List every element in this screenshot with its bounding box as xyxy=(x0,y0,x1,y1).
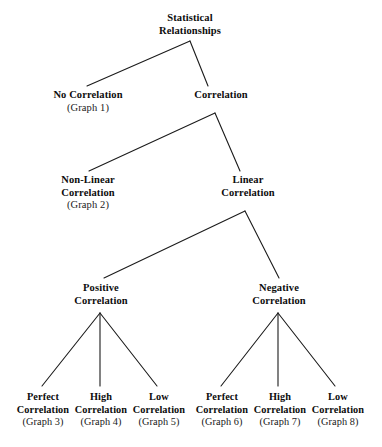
edge-layer xyxy=(0,0,382,447)
node-graph-ref: (Graph 1) xyxy=(53,102,122,115)
node-label-line1: Negative xyxy=(252,282,305,295)
edge-linear-to-negative xyxy=(245,211,279,278)
node-graph-ref: (Graph 4) xyxy=(75,416,127,429)
node-label-line1: No Correlation xyxy=(53,89,122,102)
edge-positive-to-perfect xyxy=(42,313,100,386)
edge-linear-to-positive xyxy=(104,211,245,278)
node-positive-low-correlation: Low Correlation (Graph 5) xyxy=(133,391,185,429)
node-label-line2: Correlation xyxy=(252,295,305,308)
node-label-line1: Low xyxy=(133,391,185,404)
node-label-line2: Correlation xyxy=(17,404,69,417)
node-no-correlation: No Correlation (Graph 1) xyxy=(53,89,122,114)
node-label-line2: Correlation xyxy=(254,404,306,417)
node-label-line1: Statistical xyxy=(159,12,221,25)
node-label-line2: Correlation xyxy=(312,404,364,417)
node-linear-correlation: Linear Correlation xyxy=(221,174,274,199)
edge-negative-to-perfect xyxy=(221,313,278,386)
edge-correlation-to-non-linear xyxy=(89,113,215,171)
node-positive-correlation: Positive Correlation xyxy=(74,282,127,307)
node-graph-ref: (Graph 2) xyxy=(61,199,115,212)
node-label-line1: Low xyxy=(312,391,364,404)
node-positive-high-correlation: High Correlation (Graph 4) xyxy=(75,391,127,429)
node-graph-ref: (Graph 6) xyxy=(196,416,248,429)
node-label-line1: Positive xyxy=(74,282,127,295)
edge-root-to-no-correlation xyxy=(87,41,190,86)
node-label-line1: Correlation xyxy=(194,89,247,102)
node-label-line1: Perfect xyxy=(17,391,69,404)
node-negative-low-correlation: Low Correlation (Graph 8) xyxy=(312,391,364,429)
node-graph-ref: (Graph 8) xyxy=(312,416,364,429)
node-label-line2: Correlation xyxy=(221,187,274,200)
node-label-line2: Correlation xyxy=(61,187,115,200)
node-label-line1: High xyxy=(75,391,127,404)
node-label-line1: High xyxy=(254,391,306,404)
node-label-line2: Correlation xyxy=(196,404,248,417)
node-positive-perfect-correlation: Perfect Correlation (Graph 3) xyxy=(17,391,69,429)
node-negative-perfect-correlation: Perfect Correlation (Graph 6) xyxy=(196,391,248,429)
node-label-line2: Correlation xyxy=(133,404,185,417)
edge-correlation-to-linear xyxy=(215,113,240,171)
node-statistical-relationships: Statistical Relationships xyxy=(159,12,221,37)
node-graph-ref: (Graph 5) xyxy=(133,416,185,429)
node-label-line2: Correlation xyxy=(74,295,127,308)
node-correlation: Correlation xyxy=(194,89,247,102)
node-label-line1: Non-Linear xyxy=(61,174,115,187)
node-graph-ref: (Graph 3) xyxy=(17,416,69,429)
edge-negative-to-low xyxy=(278,313,335,386)
edge-positive-to-low xyxy=(100,313,157,386)
node-label-line1: Perfect xyxy=(196,391,248,404)
node-negative-high-correlation: High Correlation (Graph 7) xyxy=(254,391,306,429)
node-label-line2: Relationships xyxy=(159,25,221,38)
node-graph-ref: (Graph 7) xyxy=(254,416,306,429)
node-negative-correlation: Negative Correlation xyxy=(252,282,305,307)
edge-root-to-correlation xyxy=(190,41,208,86)
statistical-relationships-tree-diagram: Statistical Relationships No Correlation… xyxy=(0,0,382,447)
node-label-line1: Linear xyxy=(221,174,274,187)
node-label-line2: Correlation xyxy=(75,404,127,417)
node-non-linear-correlation: Non-Linear Correlation (Graph 2) xyxy=(61,174,115,212)
